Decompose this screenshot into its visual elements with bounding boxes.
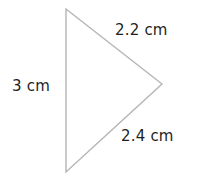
top-side-label: 2.2 cm: [115, 23, 168, 38]
bottom-side-label: 2.4 cm: [121, 129, 174, 144]
left-side-label: 3 cm: [12, 79, 50, 94]
